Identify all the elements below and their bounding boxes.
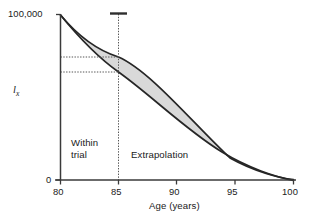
plot-area bbox=[0, 0, 317, 220]
annotation-extrapolation: Extrapolation bbox=[131, 149, 188, 160]
x-tick-label-85: 85 bbox=[111, 186, 122, 197]
annotation-within-trial-line2: trial bbox=[71, 149, 87, 160]
y-tick-label-zero: 0 bbox=[46, 174, 51, 185]
x-tick-label-100: 100 bbox=[282, 186, 298, 197]
x-tick-label-80: 80 bbox=[53, 186, 64, 197]
x-axis-label: Age (years) bbox=[149, 200, 200, 211]
x-tick-label-95: 95 bbox=[227, 186, 238, 197]
annotation-within-trial: Withintrial bbox=[71, 137, 98, 160]
x-tick-label-90: 90 bbox=[169, 186, 180, 197]
y-axis-label: lx bbox=[13, 84, 20, 99]
survival-curve-figure: 100,000 0 lx 80 85 90 95 100 Age (years)… bbox=[0, 0, 317, 220]
y-axis-label-subscript: x bbox=[16, 89, 19, 98]
annotation-within-trial-line1: Within bbox=[71, 137, 98, 148]
y-tick-label-top: 100,000 bbox=[8, 8, 43, 19]
